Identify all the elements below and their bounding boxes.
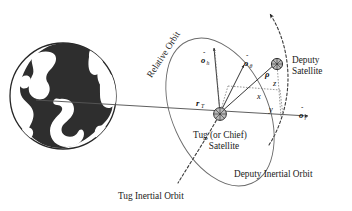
tug-inertial-orbit-label: Tug Inertial Orbit [118, 191, 184, 201]
tug-satellite-label-line1: Tug (or Chief) [193, 130, 247, 141]
rho-label: ρ [264, 69, 270, 79]
r-T-subscript: T [201, 103, 205, 109]
y-label: y [268, 105, 273, 114]
o-hat-h-guide [215, 52, 220, 113]
o-hat-h-subscript: h [207, 60, 210, 66]
tug-satellite-hatching [214, 108, 227, 121]
tug-satellite-label-line2: Satellite [209, 141, 239, 151]
o-hat-h-label: ˆ o h [201, 50, 210, 66]
o-hat-theta-vector [220, 65, 244, 113]
o-hat-r-label: ˆ o r [299, 105, 308, 121]
deputy-satellite-hatching [271, 58, 282, 69]
earth-patch-bottom-right [95, 125, 110, 142]
o-hat-r-symbol: o [299, 110, 303, 120]
earth-body [10, 43, 119, 149]
o-hat-h-symbol: o [201, 55, 205, 65]
earth-patch-right [100, 71, 119, 108]
earth-patch-upper-right [88, 49, 103, 75]
r-T-symbol: r [196, 98, 200, 108]
orbit-diagram-figure: Relative Orbit ˆ o h ˆ o θ ˆ o r r T ρ z [0, 0, 352, 211]
z-label: z [272, 79, 277, 88]
earth-landmasses [19, 43, 119, 148]
diagram-canvas: Relative Orbit ˆ o h ˆ o θ ˆ o r r T ρ z [0, 0, 352, 211]
deputy-inertial-orbit-label: Deputy Inertial Orbit [234, 169, 313, 179]
r-T-label: r T [196, 98, 205, 109]
o-hat-theta-subscript: θ [250, 63, 253, 69]
x-label: x [256, 92, 261, 101]
o-hat-theta-symbol: o [244, 58, 248, 68]
deputy-satellite-marker[interactable] [271, 58, 282, 69]
tug-satellite-marker[interactable] [214, 108, 227, 121]
relative-orbit-label: Relative Orbit [145, 29, 182, 79]
deputy-satellite-label-line2: Satellite [292, 66, 322, 76]
deputy-satellite-label-line1: Deputy [292, 55, 320, 65]
